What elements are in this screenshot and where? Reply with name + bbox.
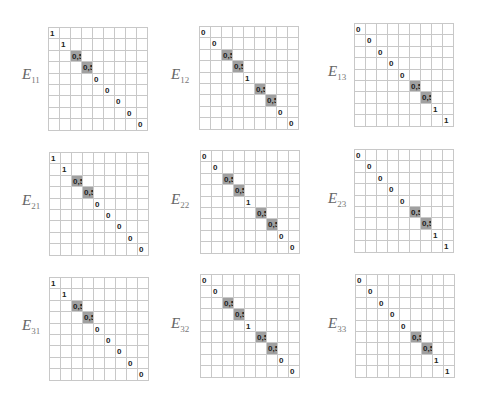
matrix-cell — [94, 244, 105, 255]
matrix-cell — [212, 366, 223, 377]
matrix-cell — [72, 153, 83, 164]
matrix-cell — [277, 95, 288, 106]
matrix-cell — [223, 185, 234, 196]
matrix-cell — [50, 312, 61, 323]
diagonal-cell: 0,5 — [256, 208, 267, 219]
diagonal-cell: 0,5 — [234, 309, 245, 320]
matrix-cell — [94, 301, 105, 312]
matrix-cell — [50, 324, 61, 335]
matrix-cell — [234, 219, 245, 230]
matrix-cell — [49, 96, 60, 107]
matrix-label-subscript: 31 — [31, 326, 40, 336]
matrix-cell — [223, 343, 234, 354]
matrix-cell — [50, 164, 61, 175]
matrix-cell — [245, 219, 256, 230]
matrix-cell — [444, 355, 455, 366]
matrix-cell — [278, 275, 289, 286]
matrix-cell — [378, 286, 389, 297]
matrix-cell — [223, 309, 234, 320]
matrix-cell — [71, 108, 82, 119]
diagonal-cell: 0 — [126, 108, 137, 119]
matrix-cell — [378, 366, 389, 377]
matrix-cell — [388, 150, 399, 161]
matrix-cell — [433, 298, 444, 309]
matrix-cell — [410, 70, 421, 81]
matrix-cell — [377, 24, 388, 35]
matrix-cell — [83, 358, 94, 369]
diagonal-cell: 1 — [60, 39, 71, 50]
matrix-cell — [212, 174, 223, 185]
matrix-cell — [422, 366, 433, 377]
matrix-cell — [432, 184, 443, 195]
matrix-cell — [289, 231, 300, 242]
matrix-cell — [388, 104, 399, 115]
matrix-cell — [105, 289, 116, 300]
matrix-cell — [116, 187, 127, 198]
matrix-cell — [443, 218, 454, 229]
matrix-cell — [233, 95, 244, 106]
matrix-cell — [116, 210, 127, 221]
matrix-cell — [433, 275, 444, 286]
matrix-cell — [105, 301, 116, 312]
matrix-cell — [245, 366, 256, 377]
matrix-cell — [126, 74, 137, 85]
diagonal-cell: 0,5 — [267, 343, 278, 354]
matrix-cell — [212, 355, 223, 366]
matrix-cell — [50, 301, 61, 312]
matrix-cell — [267, 162, 278, 173]
matrix-cell — [411, 286, 422, 297]
matrix-cell — [60, 108, 71, 119]
matrix-cell — [289, 298, 300, 309]
matrix-cell — [422, 275, 433, 286]
matrix-cell — [244, 118, 255, 129]
matrix-cell — [267, 185, 278, 196]
matrix-cell — [255, 118, 266, 129]
diagonal-cell: 0 — [201, 275, 212, 286]
matrix-cell — [61, 346, 72, 357]
matrix-cell — [444, 343, 455, 354]
matrix-cell — [105, 233, 116, 244]
matrix-cell — [201, 321, 212, 332]
matrix-cell — [116, 244, 127, 255]
diagonal-cell: 0 — [289, 366, 300, 377]
matrix-cell — [211, 95, 222, 106]
diagonal-cell: 0,5 — [72, 301, 83, 312]
matrix-cell — [94, 210, 105, 221]
matrix-cell — [444, 321, 455, 332]
matrix-cell — [137, 62, 148, 73]
diagonal-cell: 0 — [105, 335, 116, 346]
diagonal-cell: 0 — [212, 286, 223, 297]
matrix-cell — [223, 242, 234, 253]
matrix-cell — [60, 62, 71, 73]
matrix-cell — [72, 358, 83, 369]
matrix-cell — [421, 230, 432, 241]
matrix-cell — [116, 164, 127, 175]
matrix-cell — [255, 27, 266, 38]
matrix-cell — [223, 275, 234, 286]
diagonal-cell: 1 — [61, 164, 72, 175]
matrix-cell — [126, 85, 137, 96]
matrix-cell — [94, 176, 105, 187]
matrix-cell — [399, 184, 410, 195]
matrix-cell — [212, 309, 223, 320]
matrix-cell — [377, 104, 388, 115]
matrix-cell — [116, 199, 127, 210]
matrix-cell — [105, 312, 116, 323]
matrix-cell — [200, 107, 211, 118]
matrix-cell — [443, 196, 454, 207]
matrix-cell — [266, 50, 277, 61]
matrix-cell — [126, 39, 137, 50]
matrix-cell — [388, 196, 399, 207]
matrix-cell — [61, 199, 72, 210]
matrix-cell — [289, 309, 300, 320]
matrix-cell — [277, 50, 288, 61]
matrix-cell — [116, 312, 127, 323]
matrix-cell — [389, 355, 400, 366]
diagonal-cell: 0,5 — [255, 84, 266, 95]
matrix-cell — [289, 286, 300, 297]
diagonal-cell: 0 — [115, 96, 126, 107]
matrix-cell — [126, 51, 137, 62]
matrix-cell — [211, 73, 222, 84]
matrix-cell — [212, 242, 223, 253]
matrix-cell — [201, 366, 212, 377]
